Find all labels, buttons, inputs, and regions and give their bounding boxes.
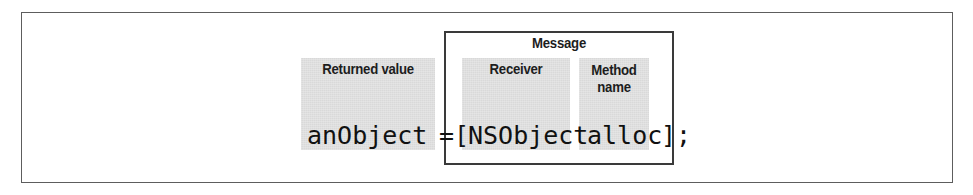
receiver-label: Receiver [468, 61, 563, 76]
code-token-receiver: NSObject [468, 121, 588, 151]
method-name-label: Method name [583, 61, 645, 95]
code-token-method-name: alloc [587, 121, 662, 151]
code-token-returned-value: anObject [307, 121, 427, 151]
message-group-label: Message [458, 34, 660, 51]
returned-value-label: Returned value [309, 61, 427, 76]
code-token-close-bracket-semicolon: ]; [661, 121, 691, 151]
code-token-assignment-operator: = [439, 121, 454, 151]
code-token-open-bracket: [ [454, 121, 469, 151]
figure-frame: Returned value Message Receiver Method n… [21, 12, 953, 183]
